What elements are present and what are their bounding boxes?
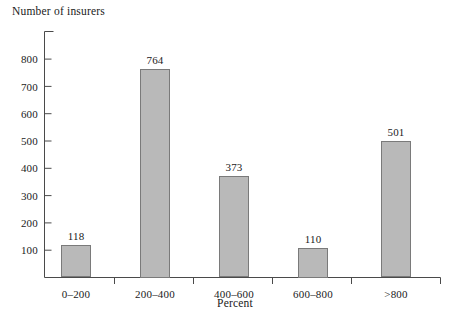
bar-200-400 (140, 69, 170, 278)
y-tick-label: 100 (4, 245, 38, 256)
bar-value-label: 110 (305, 234, 322, 245)
y-tick-label: 500 (4, 136, 38, 147)
bar-gt800 (381, 141, 411, 278)
bar-value-label: 764 (146, 55, 163, 66)
y-tick-label: 400 (4, 163, 38, 174)
bar-0-200 (61, 245, 91, 277)
y-tick-label: 300 (4, 191, 38, 202)
bar-value-label: 118 (68, 231, 85, 242)
x-axis-ticks (115, 278, 441, 285)
y-tick-label: 700 (4, 82, 38, 93)
y-axis-ticks (45, 59, 52, 250)
bar-600-800 (298, 248, 328, 278)
bar-value-label: 373 (225, 162, 242, 173)
y-tick-label: 200 (4, 218, 38, 229)
x-axis-title-wrap: Percent (0, 297, 450, 309)
bar-chart: Number of insurers 100 200 300 400 500 (0, 0, 450, 321)
y-tick-label: 800 (4, 54, 38, 65)
x-axis-title: Percent (217, 297, 253, 309)
bar-400-600 (219, 176, 249, 278)
bar-value-label: 501 (387, 127, 404, 138)
y-tick-label: 600 (4, 109, 38, 120)
